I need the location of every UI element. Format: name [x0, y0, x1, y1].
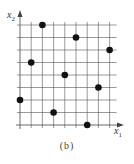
data-point	[50, 109, 57, 116]
data-point	[62, 72, 69, 79]
data-point	[39, 22, 46, 29]
scatter-grid-figure: x2 x1 (b)	[0, 0, 134, 164]
x-axis-label-subscript: 1	[118, 131, 122, 139]
y-axis-arrow-icon	[18, 10, 23, 17]
data-point	[28, 59, 35, 66]
data-point	[106, 47, 113, 54]
data-point	[95, 84, 102, 91]
y-axis-label-subscript: 2	[11, 15, 15, 23]
data-point	[73, 34, 80, 41]
figure-caption: (b)	[0, 140, 134, 151]
data-point	[84, 122, 91, 129]
x-axis-label: x1	[114, 126, 122, 140]
y-axis-label: x2	[7, 10, 15, 24]
axes	[16, 10, 124, 129]
data-point	[17, 97, 24, 104]
